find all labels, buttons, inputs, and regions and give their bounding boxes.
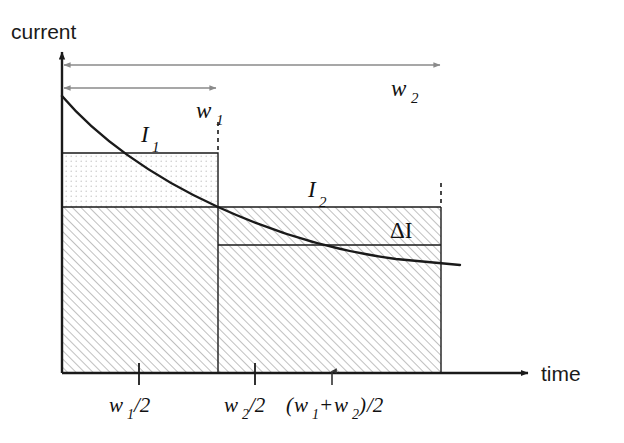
x-tick-label-w1-half-tail: /2 — [133, 393, 151, 417]
shaded-regions — [62, 153, 441, 373]
x-tick-label-w2-half-base: w — [224, 393, 238, 417]
x-tick-label-w1-half: w 1 /2 — [109, 393, 151, 422]
measure-label-w1-sub: 1 — [216, 112, 224, 128]
region-label-i1-base: I — [140, 122, 150, 147]
x-tick-label-mean-close: ) — [358, 393, 366, 417]
dashed-guides — [218, 122, 441, 207]
current-time-diagram: current time w 2 w 1 I 1 I 2 — [0, 0, 624, 443]
region-label-delta-i: ΔI — [390, 218, 412, 243]
region-i1-base-hatched — [62, 207, 218, 373]
measure-label-w2-sub: 2 — [411, 90, 419, 106]
x-tick-label-mean-base1: w — [294, 393, 308, 417]
region-label-delta-i-text: ΔI — [390, 218, 412, 243]
figure-root: current time w 2 w 1 I 1 I 2 — [0, 0, 624, 443]
region-label-i2-base: I — [307, 177, 317, 202]
measure-label-w2: w 2 — [391, 76, 419, 106]
region-label-i1-sub: 1 — [152, 139, 160, 155]
measure-arrows — [64, 65, 440, 88]
region-label-i1: I 1 — [140, 122, 160, 155]
measure-label-w1: w 1 — [196, 98, 224, 128]
x-tick-label-mean: ( w 1 + w 2 ) /2 — [286, 393, 384, 422]
measure-label-w1-base: w — [196, 98, 212, 123]
y-axis-label: current — [11, 20, 77, 43]
x-tick-label-mean-plus: + — [319, 393, 333, 417]
x-tick-label-mean-base2: w — [334, 393, 348, 417]
region-i1-dotted — [62, 153, 218, 207]
x-tick-label-mean-sub1: 1 — [312, 407, 319, 422]
x-tick-label-mean-sub2: 2 — [352, 407, 359, 422]
x-tick-label-mean-tail: /2 — [366, 393, 384, 417]
x-tick-label-w1-half-base: w — [109, 393, 123, 417]
x-tick-label-w1-half-sub: 1 — [127, 407, 134, 422]
x-tick-label-w2-half-sub: 2 — [242, 407, 249, 422]
region-label-i2-sub: 2 — [319, 194, 327, 210]
region-label-i2: I 2 — [307, 177, 327, 210]
x-axis-label: time — [541, 362, 581, 385]
x-tick-label-w2-half-tail: /2 — [248, 393, 266, 417]
measure-label-w2-base: w — [391, 76, 407, 101]
x-tick-label-w2-half: w 2 /2 — [224, 393, 266, 422]
